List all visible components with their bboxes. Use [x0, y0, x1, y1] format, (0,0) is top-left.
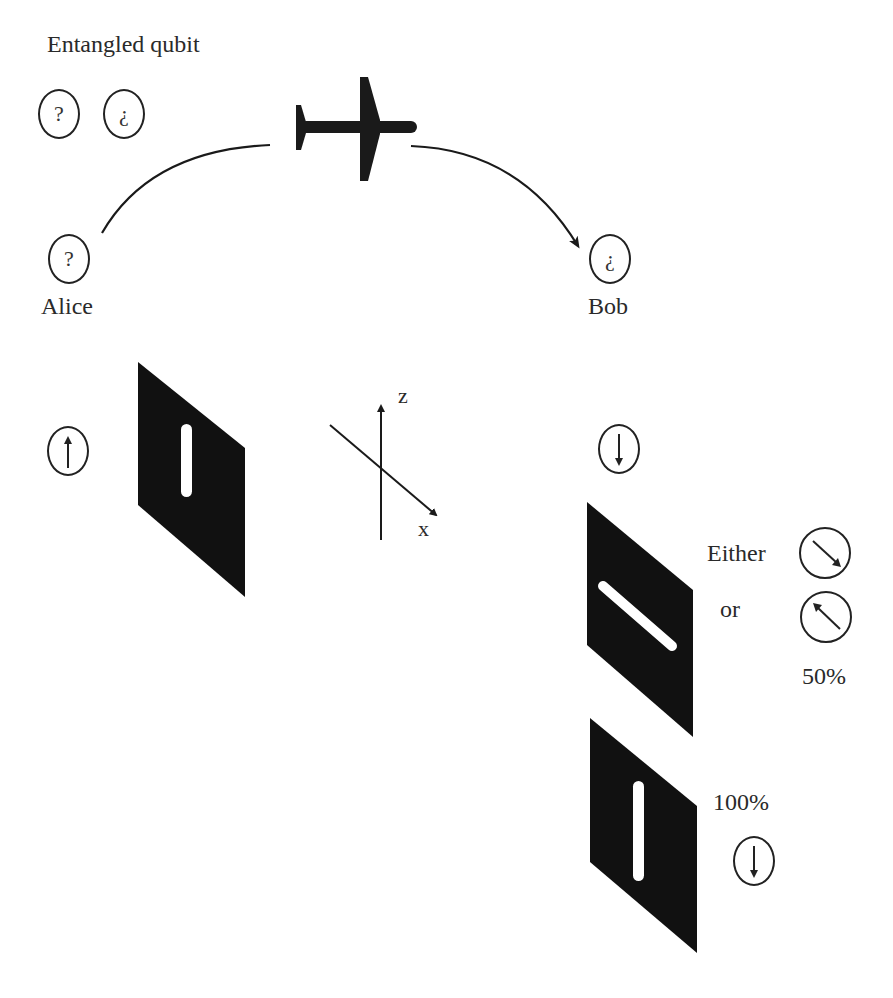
alice-label: Alice	[41, 294, 93, 318]
path-to-plane	[102, 145, 270, 233]
down-arrow-icon	[600, 426, 642, 476]
alice-vertical-slit	[181, 424, 192, 497]
down-right-arrow-icon	[801, 529, 853, 581]
x-axis	[330, 425, 436, 515]
alice-analyzer-plate	[138, 362, 245, 597]
alice-spin-up-state	[47, 426, 89, 476]
bob-vertical-slit	[633, 781, 644, 881]
bob-analyzer-plate-vertical	[590, 718, 697, 953]
x-axis-label: x	[418, 518, 429, 540]
bob-analyzer-plate-diagonal	[587, 502, 693, 737]
alice-qubit-symbol: ?	[64, 246, 74, 272]
final-spin-down-state	[733, 836, 775, 886]
z-axis-label: z	[398, 385, 408, 407]
up-left-arrow-icon	[802, 593, 854, 645]
probability-50-label: 50%	[802, 664, 846, 688]
probability-100-label: 100%	[713, 790, 769, 814]
either-label: Either	[707, 541, 766, 565]
airplane-icon	[296, 77, 417, 181]
outcome-up-left-state	[800, 591, 852, 643]
bob-label: Bob	[588, 294, 628, 318]
bob-qubit-symbol: ¿	[605, 246, 615, 272]
alice-qubit: ?	[48, 234, 90, 284]
bob-qubit: ¿	[589, 234, 631, 284]
up-arrow-icon	[49, 428, 91, 478]
or-label: or	[720, 597, 740, 621]
path-to-bob	[411, 146, 578, 246]
down-arrow-icon	[735, 838, 777, 888]
bob-spin-down-state	[598, 424, 640, 474]
outcome-down-right-state	[799, 527, 851, 579]
